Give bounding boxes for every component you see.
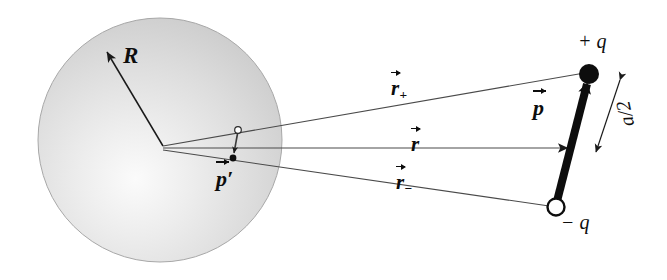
image-dipole-label: p′ (216, 168, 233, 190)
vector-hat-icon (216, 161, 228, 163)
dipole-moment-label: p (533, 97, 544, 119)
vector-r-plus-label-symbol: r (391, 76, 399, 100)
negative-charge-label: − q (561, 212, 590, 232)
vector-r-minus-label: r− (396, 172, 412, 195)
separation-label: a/2 (612, 99, 637, 128)
image-dipole-label-symbol: p (216, 166, 227, 191)
image-dipole-label-prime: ′ (227, 166, 233, 191)
vector-r-label-symbol: r (411, 132, 419, 156)
vector-r-label-vector: r (411, 134, 419, 155)
radius-label: R (123, 44, 138, 67)
vector-r-plus-label: r+ (391, 78, 407, 101)
vector-r-minus-subscript: − (404, 181, 412, 196)
vector-r-label: r (411, 134, 419, 155)
vector-hat-icon (396, 166, 405, 168)
vector-hat-icon (411, 128, 420, 130)
vector-r-plus-label-vector: r (391, 78, 399, 99)
dipole-moment-label-vector: p (533, 97, 544, 119)
vector-r-minus-label-symbol: r (396, 170, 404, 194)
image-dipole-positive-marker (230, 155, 237, 162)
figure-canvas (0, 0, 667, 280)
vector-r-plus-subscript: + (399, 87, 407, 102)
dipole-moment-label-symbol: p (533, 95, 544, 120)
positive-charge-marker (579, 64, 599, 84)
vector-hat-icon (391, 72, 400, 74)
positive-charge-label: + q (578, 31, 607, 51)
dipole-moment-arrow (556, 84, 587, 205)
dipole-sphere-figure: R p′ r+ r r− p + q − q a/2 (0, 0, 667, 280)
image-dipole-label-vector: p (216, 168, 227, 190)
vector-r-minus-label-vector: r (396, 172, 404, 193)
vector-hat-icon (533, 90, 545, 92)
image-dipole-negative-marker (235, 127, 242, 134)
